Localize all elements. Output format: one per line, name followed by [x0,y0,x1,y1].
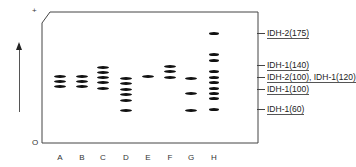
annotation-tick [257,77,265,78]
lane-label-d: D [121,153,131,162]
band [120,77,132,80]
annotation-tick [257,89,265,90]
band [76,75,88,78]
band [185,77,197,80]
lane-label-f: F [165,153,175,162]
band [76,85,88,88]
band [164,70,176,73]
lane-label-b: B [77,153,87,162]
band [120,88,132,91]
annotation-label: IDH-1(60) [267,104,304,115]
annotation-label: IDH-1(140) [267,60,309,71]
band [209,32,219,35]
band [164,76,176,79]
band [54,85,66,88]
band [209,70,219,73]
band [209,53,219,56]
band [54,75,66,78]
lane-label-c: C [98,153,108,162]
band [164,65,176,68]
band [209,97,219,100]
band [209,59,219,62]
band [97,76,109,79]
annotation-tick [257,65,265,66]
annotation-tick [257,109,265,110]
band [185,109,197,112]
band [97,81,109,84]
band [76,80,88,83]
band [209,108,219,111]
lane-label-a: A [55,153,65,162]
band [209,92,219,95]
lane-label-g: G [186,153,196,162]
annotation-label: IDH-1(100) [267,84,309,95]
band [209,87,219,90]
band [120,82,132,85]
lane-label-h: H [209,153,219,162]
band [209,81,219,84]
band [142,75,154,78]
band [54,80,66,83]
band [120,99,132,102]
band [97,87,109,90]
annotation-label: IDH-2(175) [267,28,309,39]
band [185,92,197,95]
annotation-tick [257,33,265,34]
lane-label-e: E [143,153,153,162]
band [97,71,109,74]
band [120,93,132,96]
band [120,109,132,112]
band [209,76,219,79]
band [97,66,109,69]
annotation-label: IDH-2(100), IDH-1(120) [267,72,356,83]
